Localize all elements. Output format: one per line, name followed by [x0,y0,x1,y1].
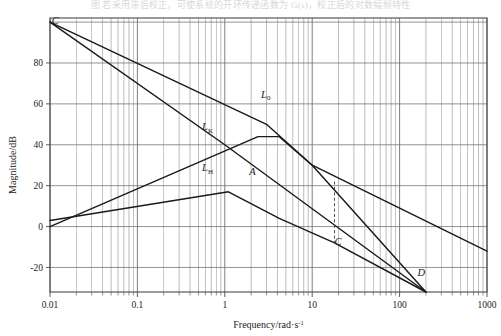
y-axis-title: Magnitude/dB [7,136,18,194]
y-tick-labels: -20020406080 [30,58,43,272]
x-tick-label: 100 [392,300,407,310]
label-C-top: C [52,15,60,26]
curve-LH [50,137,487,252]
x-axis-title: Frequency/rad·s-1 [233,319,303,330]
x-tick-label: 1 [222,300,227,310]
label-A: A [248,166,256,177]
x-tick-label: 10 [307,300,317,310]
y-tick-label: -20 [30,263,43,273]
grid-major-lines [50,18,487,292]
y-tick-label: 80 [34,58,44,68]
x-tick-label: 0.01 [42,300,59,310]
curve-annotations: CL0LKLHACD [52,15,426,278]
curve-A [50,192,426,292]
bode-plot-figure: 图 若采用滞后校正，可使系统的开环传递函数为 G(s)，校正后的对数幅频特性 0… [0,0,501,336]
x-tick-label: 0.1 [131,300,143,310]
grid-horizontal-lines [50,22,487,267]
x-tick-labels: 0.010.11101001000 [42,300,497,310]
magnitude-bode-chart: 0.010.11101001000 -20020406080 Frequency… [0,0,501,336]
label-C-mid: C [335,236,343,247]
label-D: D [416,267,425,278]
x-tick-label: 1000 [478,300,497,310]
y-tick-label: 40 [34,140,44,150]
label-L0: L0 [260,89,271,103]
curve-LK [50,22,426,292]
plot-frame [50,18,487,292]
y-tick-label: 0 [38,222,43,232]
y-tick-label: 60 [34,99,44,109]
y-tick-label: 20 [34,181,44,191]
data-curves [50,22,487,292]
